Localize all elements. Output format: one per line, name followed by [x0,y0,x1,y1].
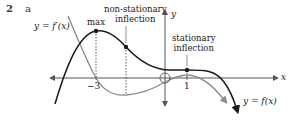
non-stationary-inflection-point [124,45,128,49]
non-stationary-inflection-label: non-stationary inflection [104,4,166,24]
tick-label-neg3: −3 [87,82,100,91]
nsi-label-line2: inflection [104,14,166,24]
max-label: max [87,18,105,27]
x-axis-label: x [281,73,286,82]
si-label-line1: stationary [172,33,216,43]
tick-label-1: 1 [184,82,190,91]
si-label-line2: inflection [172,43,216,53]
f-curve-label: y = f(x) [243,97,277,106]
question-number: 2 [6,4,13,14]
question-part: a [25,4,31,14]
stationary-inflection-label: stationary inflection [172,33,216,53]
nsi-label-line1: non-stationary [104,4,166,14]
stationary-inflection-point [185,68,189,72]
max-point [94,29,98,33]
fprime-curve-label: y = f′(x) [34,22,70,31]
y-axis-label: y [171,10,176,19]
